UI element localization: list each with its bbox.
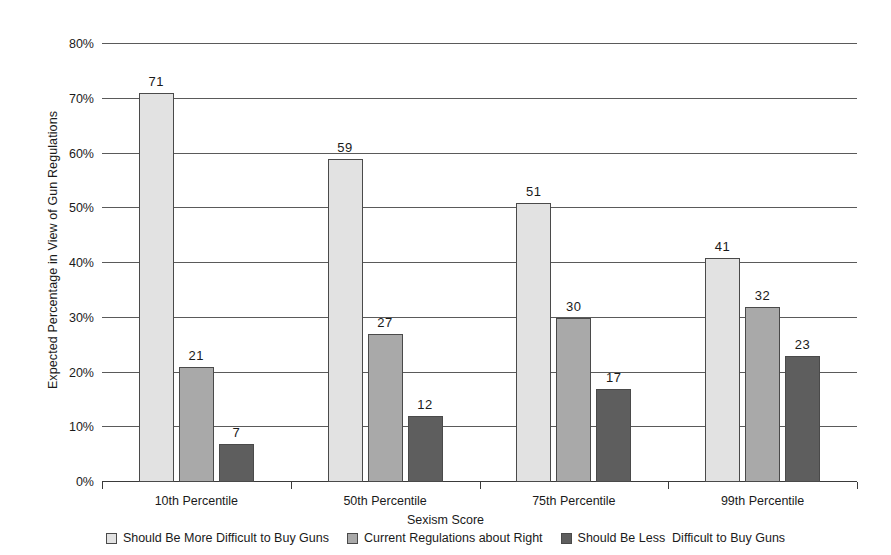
bar-value-label: 27	[362, 315, 408, 330]
y-tick-label: 80%	[44, 37, 94, 51]
y-tick-label: 10%	[44, 420, 94, 434]
bar	[368, 334, 403, 482]
legend-label: Current Regulations about Right	[364, 531, 543, 545]
bar	[516, 203, 551, 482]
y-tick-label: 60%	[44, 147, 94, 161]
bar-value-label: 23	[780, 337, 826, 352]
bar	[408, 416, 443, 482]
bar	[705, 258, 740, 482]
y-tick-label: 50%	[44, 201, 94, 215]
legend-label: Should Be Less Difficult to Buy Guns	[578, 531, 786, 545]
bar-value-label: 51	[511, 184, 557, 199]
bar-chart: Expected Percentage in View of Gun Regul…	[0, 0, 891, 555]
legend-item: Current Regulations about Right	[347, 531, 543, 545]
y-tick-label: 70%	[44, 92, 94, 106]
legend-swatch-icon	[561, 533, 572, 544]
gridline	[102, 98, 857, 99]
y-tick-label: 40%	[44, 256, 94, 270]
x-axis-tick	[857, 482, 858, 489]
bar	[219, 444, 254, 482]
bar	[179, 367, 214, 482]
bar	[556, 318, 591, 482]
bar-value-label: 12	[402, 397, 448, 412]
y-tick-label: 0%	[44, 475, 94, 489]
bar	[745, 307, 780, 482]
bar	[328, 159, 363, 482]
x-axis-title: Sexism Score	[0, 513, 891, 527]
x-tick-label: 10th Percentile	[101, 494, 291, 508]
bar-value-label: 7	[213, 425, 259, 440]
gridline	[102, 153, 857, 154]
legend-item: Should Be Less Difficult to Buy Guns	[561, 531, 786, 545]
gridline	[102, 372, 857, 373]
y-tick-label: 20%	[44, 366, 94, 380]
legend-swatch-icon	[106, 533, 117, 544]
legend-label: Should Be More Difficult to Buy Guns	[123, 531, 329, 545]
gridline	[102, 317, 857, 318]
y-tick-label: 30%	[44, 311, 94, 325]
x-axis-tick	[291, 482, 292, 489]
gridline	[102, 207, 857, 208]
chart-legend: Should Be More Difficult to Buy GunsCurr…	[0, 531, 891, 545]
x-axis-tick	[102, 482, 103, 489]
x-axis-tick	[668, 482, 669, 489]
bar-value-label: 21	[173, 348, 219, 363]
x-tick-label: 75th Percentile	[479, 494, 669, 508]
x-axis-tick	[480, 482, 481, 489]
bar-value-label: 59	[322, 140, 368, 155]
x-tick-label: 99th Percentile	[668, 494, 858, 508]
bar	[139, 93, 174, 482]
bar	[596, 389, 631, 482]
legend-swatch-icon	[347, 533, 358, 544]
gridline	[102, 43, 857, 44]
x-tick-label: 50th Percentile	[290, 494, 480, 508]
bar-value-label: 30	[551, 299, 597, 314]
bar-value-label: 71	[133, 74, 179, 89]
legend-item: Should Be More Difficult to Buy Guns	[106, 531, 329, 545]
gridline	[102, 262, 857, 263]
bar	[785, 356, 820, 482]
bar-value-label: 17	[591, 370, 637, 385]
plot-area: 0%10%20%30%40%50%60%70%80%71217592712513…	[102, 44, 857, 482]
bar-value-label: 41	[700, 239, 746, 254]
bar-value-label: 32	[740, 288, 786, 303]
